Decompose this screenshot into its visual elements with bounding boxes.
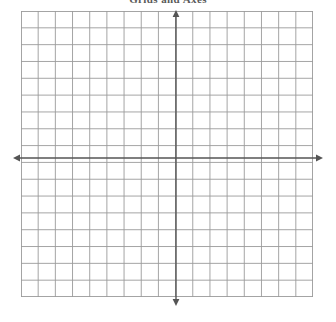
page-title: Grids and Axes — [0, 0, 336, 5]
x-axis-right-arrow-icon — [316, 155, 323, 162]
grid-lines — [21, 11, 313, 297]
x-axis-left-arrow-icon — [13, 155, 20, 162]
graph-worksheet: Grids and Axes — [0, 0, 336, 322]
grid-border — [21, 11, 312, 296]
y-axis-down-arrow-icon — [173, 299, 180, 306]
coordinate-grid — [21, 11, 313, 297]
worksheet-title-clip: Grids and Axes — [0, 0, 336, 7]
